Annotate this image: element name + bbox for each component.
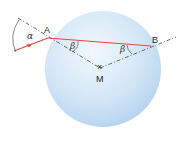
alpha-label: α <box>27 31 33 41</box>
diagram-canvas: × α β β A B M <box>0 0 180 142</box>
alpha-arc <box>13 20 19 52</box>
beta-label-b: β <box>119 44 125 54</box>
refraction-diagram: × α β β A B M <box>0 0 180 142</box>
point-m-label: M <box>96 74 104 84</box>
m-cross-icon: × <box>97 62 102 72</box>
beta-label-a: β <box>69 41 75 51</box>
sphere <box>45 11 161 127</box>
point-a-label: A <box>44 25 50 35</box>
point-b-label: B <box>152 35 158 45</box>
